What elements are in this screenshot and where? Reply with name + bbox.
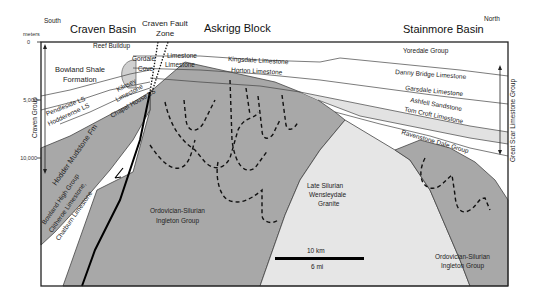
great-scar-limestone-label: Great Scar Limestone Group	[509, 79, 517, 162]
bowland-shale-label-2: Formation	[63, 75, 97, 84]
limestone-upper-label: Limestone	[167, 52, 197, 59]
granite-label-3: Granite	[318, 200, 340, 207]
stainmore-basin-title: Stainmore Basin	[403, 23, 484, 35]
gordale-label: Gordale	[132, 55, 156, 62]
south-label: South	[44, 17, 61, 24]
granite-label-2: Wensleydale	[309, 191, 346, 199]
scale-bar-km-label: 10 km	[307, 247, 325, 254]
granite-label-1: Late Silurian	[307, 182, 344, 189]
craven-fault-zone-title-2: Zone	[156, 29, 175, 38]
reef-buildup-label: Reef Buildup	[93, 42, 131, 50]
ingleton-left-label-1: Ordovician-Silurian	[150, 207, 205, 214]
ingleton-right-label-1: Ordovician-Silurian	[435, 253, 490, 260]
ingleton-left-label-2: Ingleton Group	[156, 217, 199, 225]
bowland-shale-label-1: Bowland Shale	[55, 65, 105, 74]
craven-basin-title: Craven Basin	[70, 23, 136, 35]
north-label: North	[484, 15, 500, 22]
ingleton-right-label-2: Ingleton Group	[441, 262, 484, 270]
depth-unit-label: meters	[23, 31, 40, 37]
cross-section-diagram: South Craven Basin Craven Fault Zone Ask…	[0, 0, 534, 301]
yoredale-label: Yoredale Group	[403, 47, 449, 55]
askrigg-block-title: Askrigg Block	[204, 22, 271, 34]
cove-label: Cove	[138, 65, 154, 72]
depth-tick-0: 0	[27, 39, 30, 45]
scale-bar-mi-label: 6 mi	[311, 263, 323, 270]
limestone-lower-label: Limestone	[165, 61, 195, 68]
craven-fault-zone-title-1: Craven Fault	[142, 19, 189, 28]
depth-tick-10000: 10,000	[20, 155, 37, 161]
craven-group-label: Craven Group	[31, 97, 39, 138]
